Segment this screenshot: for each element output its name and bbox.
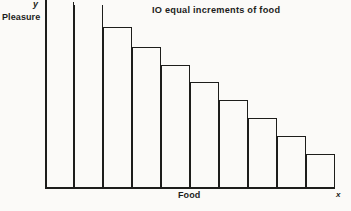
bar bbox=[277, 136, 306, 187]
bar bbox=[45, 2, 74, 187]
chart-plot-area bbox=[0, 0, 351, 211]
diminishing-returns-figure: y Pleasure IO equal increments of food F… bbox=[0, 0, 351, 211]
bar bbox=[190, 82, 219, 187]
bar bbox=[248, 118, 277, 187]
x-axis-symbol: x bbox=[336, 190, 341, 199]
chart-title: IO equal increments of food bbox=[152, 5, 280, 15]
bar bbox=[161, 65, 190, 187]
bar bbox=[132, 47, 161, 187]
y-axis-symbol: y bbox=[33, 0, 38, 9]
bar bbox=[74, 5, 103, 187]
bar bbox=[103, 27, 132, 187]
x-axis-label: Food bbox=[178, 190, 200, 200]
bar bbox=[219, 100, 248, 187]
bar bbox=[306, 154, 335, 187]
y-axis-label: Pleasure bbox=[2, 12, 40, 22]
x-axis-line bbox=[45, 187, 335, 189]
